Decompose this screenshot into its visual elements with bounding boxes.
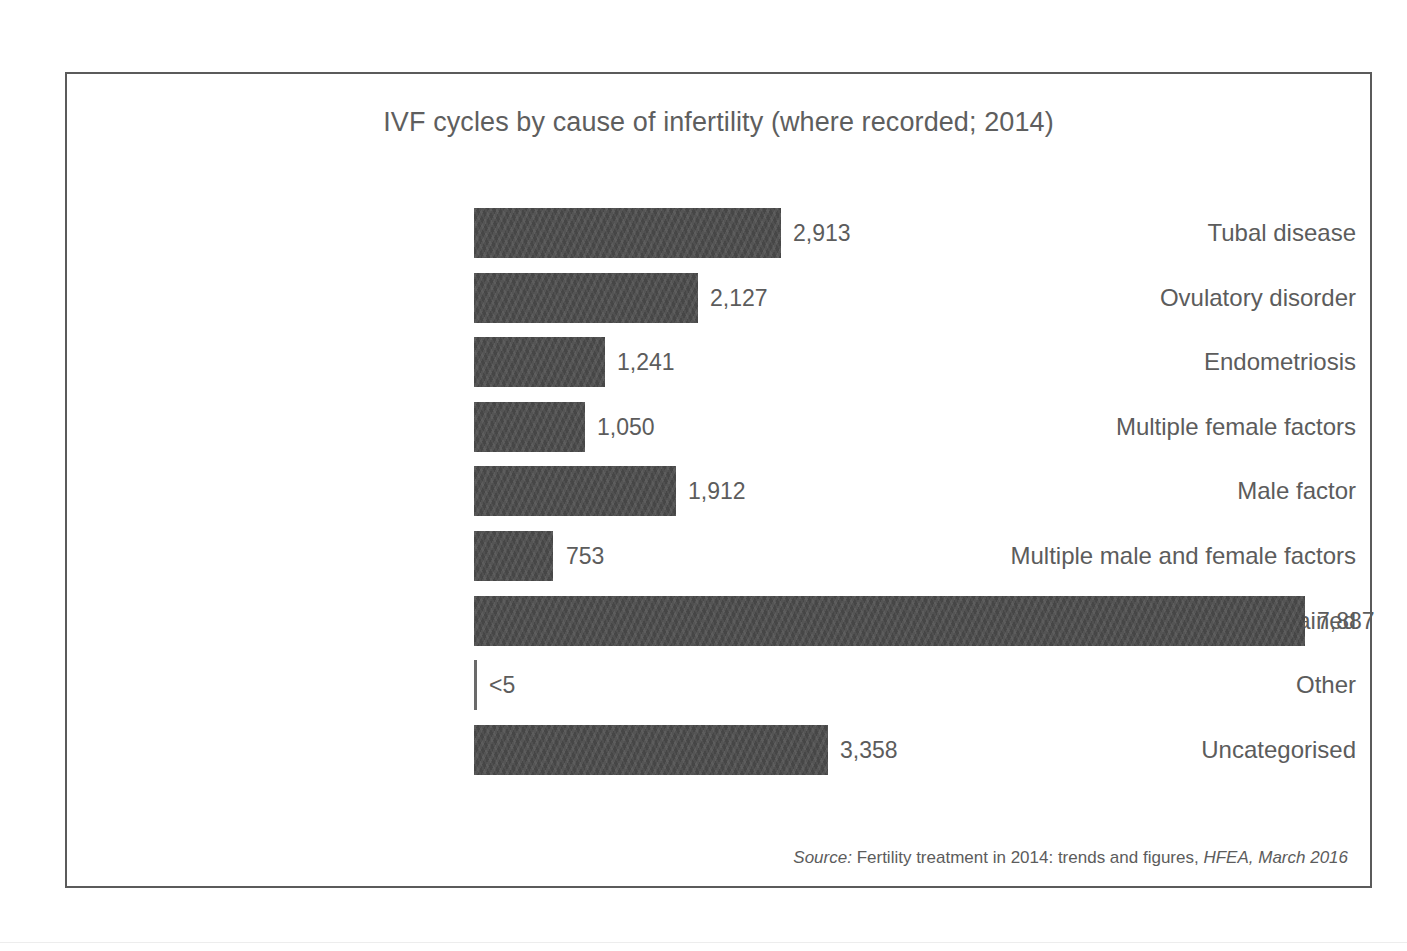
bar[interactable] <box>474 660 477 710</box>
bar-row[interactable]: Tubal disease 2,913 <box>67 208 1370 258</box>
bar-row[interactable]: Multiple male and female factors 753 <box>67 531 1370 581</box>
chart-title: IVF cycles by cause of infertility (wher… <box>67 107 1370 138</box>
bar-value-label: <5 <box>489 660 515 710</box>
bar-chart-plot-area: Tubal disease 2,913 Ovulatory disorder 2… <box>67 208 1370 778</box>
bar-track: 2,913 <box>474 208 1370 258</box>
bar-track: 7,887 <box>474 596 1370 646</box>
bar-value-label: 3,358 <box>840 725 898 775</box>
bar[interactable] <box>474 402 585 452</box>
bar[interactable] <box>474 466 676 516</box>
bar-track: <5 <box>474 660 1370 710</box>
bar-value-label: 1,241 <box>617 337 675 387</box>
bar[interactable] <box>474 596 1305 646</box>
source-suffix: HFEA, March 2016 <box>1203 848 1348 867</box>
bar-value-label: 1,912 <box>688 466 746 516</box>
bar-track: 2,127 <box>474 273 1370 323</box>
bar[interactable] <box>474 725 828 775</box>
bar-row[interactable]: Ovulatory disorder 2,127 <box>67 273 1370 323</box>
page-bottom-rule <box>0 942 1407 943</box>
bar-row[interactable]: Male factor 1,912 <box>67 466 1370 516</box>
bar-track: 1,241 <box>474 337 1370 387</box>
bar-value-label: 2,127 <box>710 273 768 323</box>
bar-row[interactable]: Uncategorised 3,358 <box>67 725 1370 775</box>
bar-value-label: 2,913 <box>793 208 851 258</box>
source-main: Fertility treatment in 2014: trends and … <box>857 848 1199 867</box>
bar-track: 3,358 <box>474 725 1370 775</box>
bar-value-label: 753 <box>566 531 604 581</box>
figure-frame: IVF cycles by cause of infertility (wher… <box>65 72 1372 888</box>
source-note: Source: Fertility treatment in 2014: tre… <box>793 848 1348 868</box>
page-canvas: IVF cycles by cause of infertility (wher… <box>0 0 1407 951</box>
bar-row[interactable]: Other <5 <box>67 660 1370 710</box>
bar-row[interactable]: Unexplained 7,887 <box>67 596 1370 646</box>
bar[interactable] <box>474 531 553 581</box>
bar-value-label: 7,887 <box>1317 596 1375 646</box>
bar[interactable] <box>474 337 605 387</box>
source-prefix: Source: <box>793 848 852 867</box>
bar-track: 1,912 <box>474 466 1370 516</box>
bar-track: 1,050 <box>474 402 1370 452</box>
bar-row[interactable]: Multiple female factors 1,050 <box>67 402 1370 452</box>
bar-track: 753 <box>474 531 1370 581</box>
bar-row[interactable]: Endometriosis 1,241 <box>67 337 1370 387</box>
bar[interactable] <box>474 208 781 258</box>
bar-value-label: 1,050 <box>597 402 655 452</box>
bar[interactable] <box>474 273 698 323</box>
